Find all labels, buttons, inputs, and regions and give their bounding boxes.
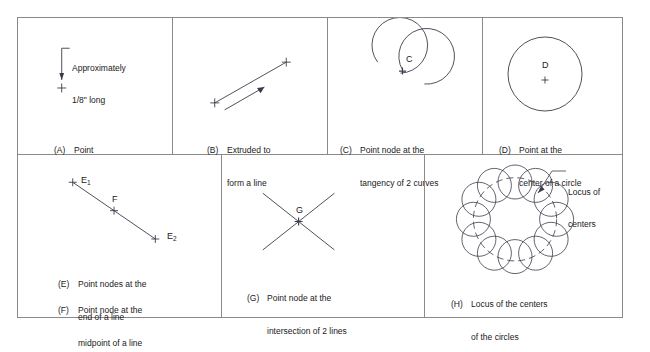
panel-e-node-label-2: E2 (152, 221, 177, 252)
panel-a-caption-text: Point (74, 145, 93, 155)
panel-g-caption-line-1: (G)Point node at the (247, 293, 347, 304)
panel-h-tag: (H) (451, 299, 471, 310)
panel-b-caption-text-1: Extruded to (227, 145, 270, 155)
panel-b: (B)Extruded to form a line (173, 18, 328, 154)
panel-e-node-label-1: E1 (66, 165, 91, 196)
panel-h-caption: (H)Locus of the centers of the circles (451, 277, 548, 352)
panel-h-annotation: Locus of centers (568, 166, 600, 250)
panel-d-caption-text-1: Point at the (519, 145, 562, 155)
panel-c-node-label: C (406, 54, 413, 64)
panel-h: Locus of centers (H)Locus of the centers… (425, 155, 622, 317)
panel-c: C (C)Point node at the tangency of 2 cur… (328, 18, 483, 154)
panel-h-caption-line-1: (H)Locus of the centers (451, 299, 548, 310)
panel-h-annotation-line-2: centers (568, 219, 600, 230)
panel-a-annotation-line-2: 1/8" long (72, 95, 126, 106)
panel-g: G (G)Point node at the intersection of 2… (222, 155, 425, 317)
panel-d-node-label: D (542, 60, 549, 70)
panel-h-caption-text-1: Locus of the centers (471, 299, 548, 309)
panel-a-annotation: Approximately 1/8" long (72, 42, 126, 126)
panel-e-node-sub-2: 2 (173, 235, 177, 242)
panel-g-caption-text-1: Point node at the (267, 293, 331, 303)
panel-h-caption-line-2: of the circles (451, 332, 548, 343)
panel-c-caption-text-1: Point node at the (360, 145, 424, 155)
panel-h-annotation-line-1: Locus of (568, 187, 600, 198)
panel-f-caption-line-1: (F)Point node at the (58, 305, 142, 316)
panel-e-node-sub-1: 1 (87, 179, 91, 186)
panel-f-node-label: F (112, 194, 118, 204)
panel-f-tag: (F) (58, 305, 78, 316)
panel-f-caption-text-1: Point node at the (78, 305, 142, 315)
panel-f-caption-line-2: midpoint of a line (58, 338, 142, 349)
panel-a: Approximately 1/8" long (A)Point (18, 18, 173, 154)
panel-f-caption: (F)Point node at the midpoint of a line (58, 283, 142, 352)
panel-g-node-label: G (296, 205, 303, 215)
panel-ef: E1 F E2 (E)Point nodes at the end of a l… (18, 155, 222, 317)
panel-d: D (D)Point at the center of a circle (483, 18, 622, 154)
panel-g-tag: (G) (247, 293, 267, 304)
panel-a-annotation-line-1: Approximately (72, 63, 126, 74)
panel-g-caption: (G)Point node at the intersection of 2 l… (247, 271, 347, 352)
panel-g-caption-line-2: intersection of 2 lines (247, 326, 347, 337)
